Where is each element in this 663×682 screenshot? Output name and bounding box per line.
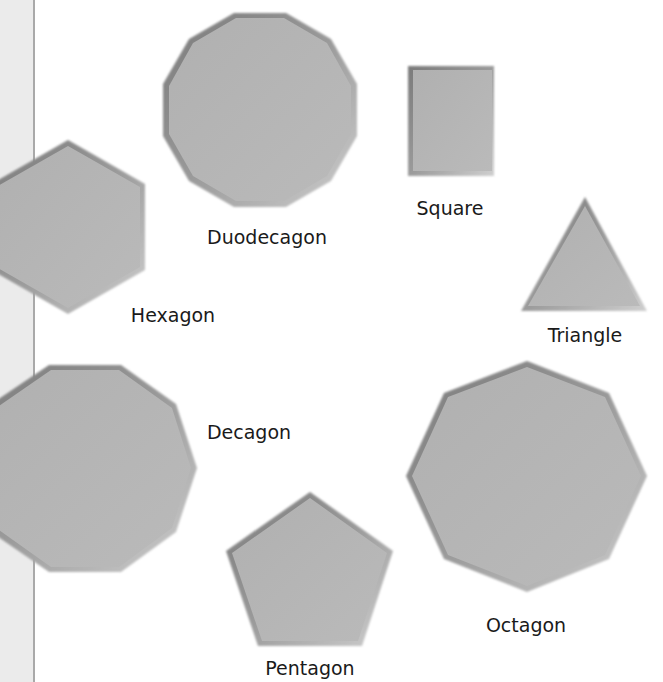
decagon-label: Decagon — [207, 423, 291, 442]
hexagon-label: Hexagon — [131, 306, 215, 325]
square-label: Square — [417, 199, 484, 218]
decagon-shape — [0, 365, 197, 572]
octagon-label: Octagon — [486, 616, 566, 635]
pentagon-label: Pentagon — [265, 659, 354, 678]
triangle-label: Triangle — [548, 326, 623, 345]
octagon-shape — [406, 361, 647, 592]
pentagon-shape — [226, 492, 393, 646]
duodecagon-label: Duodecagon — [207, 228, 327, 247]
duodecagon-shape — [163, 13, 357, 207]
triangle-shape — [521, 197, 647, 311]
square-shape — [408, 66, 494, 176]
hexagon-shape — [0, 140, 145, 314]
